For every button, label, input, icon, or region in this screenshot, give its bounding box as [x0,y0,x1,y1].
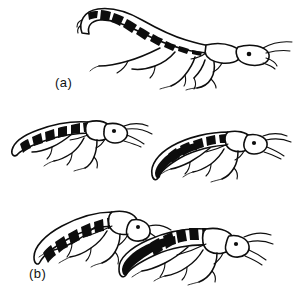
panel-label-a: (a) [55,76,72,89]
figure-root: (a) [0,0,294,289]
beetle-a-1-eye [247,52,252,57]
figure-panel-b: (b) [0,100,294,195]
beetle-b-left-eye [112,129,116,133]
beetle-b-right-eye [252,141,256,145]
beetle-c-right-eye [234,242,238,246]
beetle-a-1-head [236,45,269,65]
beetle-a-1-mandible-lower [263,63,275,69]
beetle-a-1-thorax [205,44,240,64]
beetle-c-left-eye [136,225,140,229]
figure-panel-c: (c) [0,195,294,289]
beetle-a-1 [77,9,292,90]
beetle-b-right [152,131,291,182]
beetle-c-right-head [225,236,249,258]
figure-panel-a: (a) [0,0,294,100]
beetle-c-left-head [126,220,150,242]
beetle-b-left [12,121,152,171]
beetle-a-1-antenna-upper [263,42,292,48]
beetle-a-1-abdomen-bands [88,10,202,56]
panel-b-drawing [0,100,294,195]
beetle-a-1-antenna-lower [266,51,290,53]
panel-c-drawing [0,195,294,289]
panel-a-drawing [0,0,294,100]
